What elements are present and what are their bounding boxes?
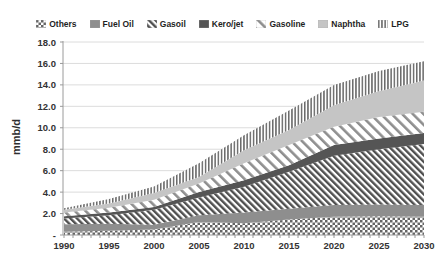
legend-swatch-icon [147,20,157,28]
x-tick-label: 2015 [278,240,300,251]
legend-label: Gasoil [160,19,186,29]
legend-item-naphtha: Naphtha [318,19,365,29]
y-tick-label: 8.0 [43,144,56,155]
x-tick-label: 2010 [233,240,254,251]
legend-swatch-icon [36,20,46,28]
legend-item-lpg: LPG [378,19,408,29]
y-tick-label: 14.0 [38,79,57,90]
legend-label: Others [49,19,76,29]
legend-item-gasoil: Gasoil [147,19,186,29]
y-tick-label: - [53,230,56,241]
legend-swatch-icon [378,20,388,28]
y-tick-label: 4.0 [43,187,56,198]
legend-swatch-icon [90,20,100,28]
y-tick-label: 10.0 [38,122,57,133]
area-series [64,61,424,235]
legend-label: Kero/jet [212,19,244,29]
y-tick-label: 18.0 [38,37,57,48]
y-tick-label: 6.0 [43,165,56,176]
legend-label: Fuel Oil [103,19,134,29]
legend-swatch-icon [256,20,266,28]
x-tick-label: 1995 [98,240,120,251]
x-tick-label: 1990 [53,240,74,251]
x-tick-label: 2025 [368,240,390,251]
y-axis-title: mmb/d [10,107,22,167]
y-tick-label: 2.0 [43,208,56,219]
legend-label: LPG [391,19,408,29]
chart-figure: OthersFuel OilGasoilKero/jetGasolineNaph… [0,0,445,261]
x-tick-label: 2005 [188,240,210,251]
stacked-area-chart: -2.04.06.08.010.012.014.016.018.01990199… [0,0,445,261]
legend-swatch-icon [318,20,328,28]
legend-item-gasoline: Gasoline [256,19,305,29]
y-tick-label: 12.0 [38,101,57,112]
legend-swatch-icon [199,20,209,28]
y-tick-label: 16.0 [38,58,57,69]
chart-legend: OthersFuel OilGasoilKero/jetGasolineNaph… [0,19,445,29]
legend-item-others: Others [36,19,76,29]
x-tick-label: 2000 [143,240,164,251]
legend-label: Gasoline [269,19,305,29]
x-tick-label: 2020 [323,240,344,251]
legend-item-kero-jet: Kero/jet [199,19,244,29]
legend-label: Naphtha [331,19,365,29]
legend-item-fuel-oil: Fuel Oil [90,19,134,29]
x-tick-label: 2030 [413,240,434,251]
